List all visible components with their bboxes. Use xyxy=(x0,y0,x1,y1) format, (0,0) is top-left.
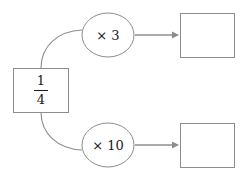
diagram-canvas: 1 4 × 3 × 10 xyxy=(0,0,243,178)
arrow-bottom xyxy=(135,142,179,149)
arrow-top xyxy=(135,32,179,39)
input-numerator: 1 xyxy=(37,73,45,88)
output-box-top[interactable] xyxy=(181,14,235,58)
operation-label-top: × 3 xyxy=(96,28,119,43)
arrow-top-head xyxy=(172,32,179,39)
input-denominator: 4 xyxy=(37,92,45,107)
operation-label-bottom: × 10 xyxy=(92,138,124,153)
input-node[interactable]: 1 4 xyxy=(14,69,69,113)
connector-curve-top xyxy=(41,30,82,68)
arrow-bottom-head xyxy=(172,142,179,149)
connector-curve-bottom xyxy=(41,112,82,150)
output-node-top[interactable] xyxy=(181,14,235,58)
output-node-bottom[interactable] xyxy=(181,124,235,168)
operation-node-times-10[interactable]: × 10 xyxy=(82,123,134,167)
output-box-bottom[interactable] xyxy=(181,124,235,168)
function-machine-diagram: 1 4 × 3 × 10 xyxy=(0,0,243,178)
operation-node-times-3[interactable]: × 3 xyxy=(82,13,134,57)
